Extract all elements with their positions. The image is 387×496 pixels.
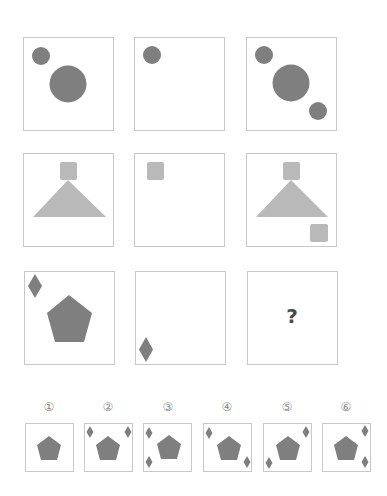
r1c1-shapes — [32, 47, 87, 103]
diamond-icon — [146, 456, 153, 468]
square-icon — [60, 162, 77, 180]
option-4-shapes — [206, 427, 251, 468]
diamond-icon — [139, 337, 153, 362]
pentagon-icon — [276, 436, 300, 460]
option-label-4: ④ — [217, 400, 237, 414]
r2c3-shapes — [256, 162, 328, 242]
option-label-3: ③ — [158, 400, 178, 414]
triangle-icon — [33, 180, 106, 217]
option-3-shapes — [146, 427, 182, 468]
diamond-icon — [244, 456, 251, 468]
pentagon-icon — [334, 436, 358, 460]
r3c2-shapes — [139, 337, 153, 362]
diamond-icon — [266, 457, 273, 469]
option-label-2: ② — [98, 400, 118, 414]
diamond-icon — [146, 427, 153, 439]
option-label-1: ① — [39, 400, 59, 414]
r3c1-shapes — [28, 274, 92, 342]
pentagon-icon — [37, 436, 61, 460]
large-circle-icon — [50, 66, 87, 103]
diamond-icon — [87, 426, 94, 438]
small-circle-icon — [143, 46, 161, 64]
small-circle-icon — [309, 102, 327, 120]
square-icon — [147, 162, 164, 180]
triangle-icon — [256, 180, 328, 217]
diamond-icon — [362, 456, 369, 468]
small-circle-icon — [255, 46, 273, 64]
option-1-shapes — [37, 436, 61, 460]
r1c2-shapes — [143, 46, 161, 64]
option-2-shapes — [87, 426, 132, 460]
diamond-icon — [303, 426, 310, 438]
diamond-icon — [206, 427, 213, 439]
option-label-5: ⑤ — [277, 400, 297, 414]
option-label-6: ⑥ — [336, 400, 356, 414]
diamond-icon — [28, 274, 42, 298]
diamond-icon — [362, 425, 369, 437]
pentagon-icon — [47, 295, 92, 342]
pentagon-icon — [96, 436, 120, 460]
option-6-shapes — [334, 425, 369, 468]
pentagon-icon — [217, 436, 241, 460]
option-5-shapes — [266, 426, 310, 469]
r2c2-shapes — [147, 162, 164, 180]
square-icon — [283, 162, 300, 180]
diamond-icon — [125, 426, 132, 438]
square-icon — [310, 224, 328, 242]
large-circle-icon — [273, 65, 310, 102]
question-mark: ? — [277, 304, 307, 328]
small-circle-icon — [32, 47, 50, 65]
puzzle-figures — [0, 0, 387, 496]
r2c1-shapes — [33, 162, 106, 217]
r1c3-shapes — [255, 46, 327, 120]
pentagon-icon — [157, 435, 181, 459]
